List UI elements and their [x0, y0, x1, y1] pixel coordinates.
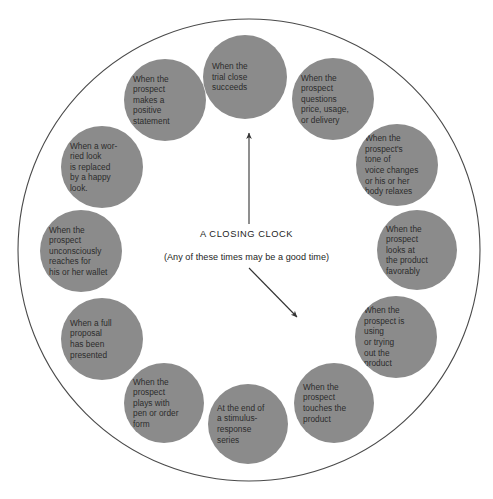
down-right-arrow	[249, 268, 297, 317]
clock-node-10-oclock[interactable]: When a wor- ried look is replaced by a h…	[61, 126, 143, 208]
clock-node-label: When the prospect is using or trying out…	[355, 305, 437, 369]
clock-node-4-oclock[interactable]: When the prospect is using or trying out…	[355, 296, 437, 378]
clock-node-label: When a full proposal has been presented	[61, 318, 143, 360]
clock-node-8-oclock[interactable]: When a full proposal has been presented	[61, 298, 143, 380]
clock-node-1-oclock[interactable]: When the prospect questions price, usage…	[292, 58, 374, 140]
clock-node-label: When the prospect touches the product	[294, 382, 374, 424]
clock-node-2-oclock[interactable]: When the prospect's tone of voice change…	[356, 124, 438, 206]
clock-node-5-oclock[interactable]: When the prospect touches the product	[294, 363, 374, 443]
clock-node-label: When the prospect plays with pen or orde…	[124, 377, 204, 430]
clock-node-label: When the prospect's tone of voice change…	[356, 133, 438, 197]
diagram-subtitle: (Any of these times may be a good time)	[0, 252, 493, 262]
clock-node-7-oclock[interactable]: When the prospect plays with pen or orde…	[124, 363, 204, 443]
clock-node-11-oclock[interactable]: When the prospect makes a positive state…	[124, 59, 206, 141]
diagram-title: A CLOSING CLOCK	[0, 229, 493, 239]
clock-node-label: At the end of a stimulus- response serie…	[208, 403, 288, 445]
clock-node-label: When the prospect questions price, usage…	[292, 73, 374, 126]
clock-node-label: When the trial close succeeds	[203, 61, 287, 93]
closing-clock-diagram: When the trial close succeeds When the p…	[0, 0, 493, 499]
clock-node-3-oclock[interactable]: When the prospect looks at the product f…	[377, 210, 457, 290]
clock-node-6-oclock[interactable]: At the end of a stimulus- response serie…	[208, 384, 288, 464]
clock-node-12-oclock[interactable]: When the trial close succeeds	[203, 35, 287, 119]
clock-node-9-oclock[interactable]: When the prospect unconsciously reaches …	[40, 210, 122, 292]
clock-node-label: When a wor- ried look is replaced by a h…	[61, 141, 143, 194]
clock-node-label: When the prospect makes a positive state…	[124, 74, 206, 127]
